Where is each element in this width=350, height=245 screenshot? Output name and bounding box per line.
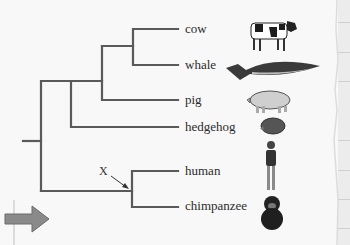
node-marker-x: X bbox=[99, 164, 108, 179]
whale-icon bbox=[226, 62, 320, 80]
pig-icon bbox=[246, 87, 296, 115]
arrow-icon bbox=[5, 200, 49, 245]
cow-icon bbox=[247, 17, 299, 53]
taxon-label-human: human bbox=[185, 164, 220, 178]
taxon-label-hedgehog: hedgehog bbox=[185, 120, 236, 134]
taxon-label-pig: pig bbox=[185, 93, 202, 107]
taxon-label-cow: cow bbox=[185, 22, 207, 36]
chimpanzee-icon bbox=[259, 195, 285, 231]
taxon-label-chimpanzee: chimpanzee bbox=[185, 199, 247, 213]
hedgehog-icon bbox=[259, 116, 287, 136]
taxon-label-whale: whale bbox=[185, 58, 216, 72]
human-icon bbox=[262, 140, 280, 192]
